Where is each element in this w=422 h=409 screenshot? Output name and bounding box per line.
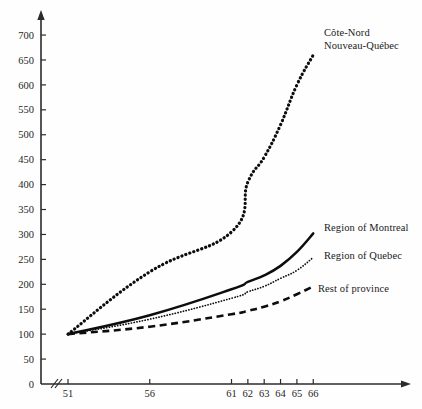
y-tick-label: 350 — [18, 204, 34, 215]
series-label-line-1: Côte-Nord — [324, 27, 399, 40]
series-label-rest: Rest of province — [318, 283, 389, 296]
series-label-montreal: Region of Montreal — [324, 222, 409, 235]
y-tick-label: 700 — [18, 30, 34, 41]
chart-figure: 0501001502002503003504004505005506006507… — [0, 0, 422, 409]
series-label-line-2: Nouveau-Québec — [324, 40, 399, 53]
y-tick-label: 200 — [18, 279, 34, 290]
y-tick-label: 100 — [18, 329, 34, 340]
series-label-cote-nord: Côte-Nord Nouveau-Québec — [324, 27, 399, 53]
y-axis-arrow — [37, 10, 44, 20]
x-tick-label: 56 — [145, 388, 156, 399]
series-label-line-1: Rest of province — [318, 283, 389, 296]
series-label-line-1: Region of Montreal — [324, 222, 409, 235]
x-axis-group — [41, 379, 411, 388]
x-axis-arrow — [401, 380, 411, 387]
y-axis-group — [37, 10, 46, 384]
x-tick-label: 61 — [226, 388, 237, 399]
x-tick-label: 51 — [63, 388, 74, 399]
y-tick-label: 600 — [18, 80, 34, 91]
series-label-quebec: Region of Quebec — [324, 250, 402, 263]
y-tick-label: 550 — [18, 104, 34, 115]
x-tick-label: 64 — [275, 388, 286, 399]
y-tick-label: 50 — [24, 354, 35, 365]
y-tick-label: 150 — [18, 304, 34, 315]
series-line-1 — [68, 233, 313, 334]
series-label-line-1: Region of Quebec — [324, 250, 402, 263]
y-tick-label: 450 — [18, 154, 34, 165]
series-line-0 — [68, 55, 313, 334]
x-tick-label: 62 — [243, 388, 254, 399]
y-tick-label: 500 — [18, 129, 34, 140]
x-tick-label: 66 — [308, 388, 319, 399]
y-tick-labels: 0501001502002503003504004505005506006507… — [18, 30, 34, 390]
y-tick-label: 300 — [18, 229, 34, 240]
chart-canvas: 0501001502002503003504004505005506006507… — [0, 0, 422, 409]
y-tick-label: 650 — [18, 55, 34, 66]
y-tick-label: 250 — [18, 254, 34, 265]
y-tick-label: 400 — [18, 179, 34, 190]
x-tick-label: 65 — [292, 388, 303, 399]
y-tick-label: 0 — [29, 379, 34, 390]
x-tick-labels: 5156616263646566 — [63, 388, 319, 399]
series-layer — [68, 55, 313, 334]
x-tick-label: 63 — [259, 388, 270, 399]
